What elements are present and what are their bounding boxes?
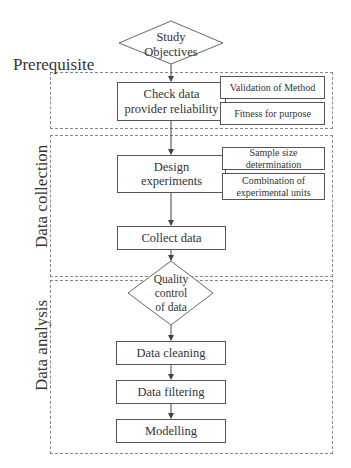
validation-of-method-box: Validation of Method: [220, 76, 325, 99]
sample-size-line1: Sample size: [249, 147, 297, 159]
check-data-provider-box: Check data provider reliability: [117, 82, 226, 121]
combination-line2: experimental units: [236, 187, 310, 199]
design-experiments-box: Design experiments: [117, 155, 226, 193]
collect-data-box: Collect data: [117, 226, 226, 250]
study-objectives-line2: Objectives: [131, 45, 211, 60]
design-line2: experiments: [141, 174, 202, 188]
check-data-line1: Check data: [144, 87, 200, 101]
design-line1: Design: [154, 160, 189, 174]
study-objectives-node: Study Objectives: [131, 30, 211, 60]
study-objectives-line1: Study: [131, 30, 211, 45]
data-cleaning-box: Data cleaning: [116, 341, 226, 365]
data-filtering-box: Data filtering: [116, 380, 226, 404]
check-data-line2: provider reliability: [124, 102, 218, 116]
sample-size-line2: determination: [246, 159, 302, 171]
quality-line1: Quality: [141, 273, 201, 287]
combination-line1: Combination of: [242, 175, 305, 187]
quality-line3: of data: [141, 301, 201, 315]
modelling-box: Modelling: [116, 419, 226, 443]
sample-size-box: Sample size determination: [222, 147, 325, 170]
quality-control-node: Quality control of data: [141, 273, 201, 314]
combination-box: Combination of experimental units: [222, 173, 325, 200]
fitness-for-purpose-box: Fitness for purpose: [220, 102, 325, 125]
quality-line2: control: [141, 287, 201, 301]
